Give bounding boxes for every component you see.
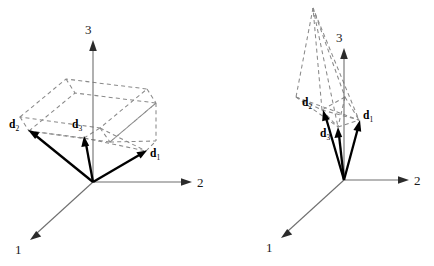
left-axis-3-label: 3 xyxy=(85,22,92,37)
right-axis-1-label: 1 xyxy=(266,240,273,255)
background xyxy=(0,0,434,266)
right-axis-2-label: 2 xyxy=(414,173,421,188)
diagram-canvas: 3 2 1 d1 d2 d3 xyxy=(0,0,434,266)
left-axis-2-label: 2 xyxy=(197,175,204,190)
vector-diagram-figure: 3 2 1 d1 d2 d3 xyxy=(0,0,434,266)
left-axis-1-label: 1 xyxy=(15,242,22,257)
right-axis-3-label: 3 xyxy=(336,30,343,45)
